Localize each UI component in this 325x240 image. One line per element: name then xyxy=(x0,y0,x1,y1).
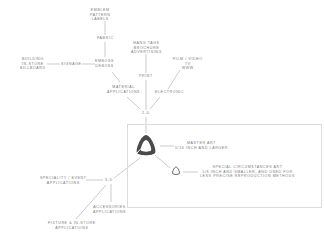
node-electronic: ELECTRONIC xyxy=(155,90,184,95)
node-building-billboard: BUILDING IN-STORE BILLBOARD xyxy=(20,57,46,71)
node-hang-tags-brochure: HANG TAGS BROCHURE ADVERTISING xyxy=(131,41,162,55)
node-fixture-in-store: FIXTURE & IN-STORE APPLICATIONS xyxy=(48,221,96,230)
node-emblem-pattern-labels: EMBLEM PATTERN LABELS xyxy=(90,8,110,22)
node-speciality-event: SPECIALITY / EVENT APPLICATIONS xyxy=(40,176,86,185)
node-fabric: FABRIC xyxy=(97,36,114,41)
node-material-applications: MATERIAL APPLICATIONS xyxy=(107,85,140,94)
node-2d: 2-D xyxy=(142,111,150,116)
node-accessories-applications: ACCESSORIES APPLICATIONS xyxy=(93,205,126,214)
node-signage: SIGNAGE xyxy=(61,62,82,67)
node-print: PRINT xyxy=(139,74,153,79)
node-emboss-deboss: EMBOSS DEBOSS xyxy=(95,59,114,68)
node-master-art: MASTER ART 5/16 INCH AND LARGER xyxy=(175,141,228,150)
node-film-video-www: FILM / VIDEO TV WWW xyxy=(173,57,203,71)
node-special-circumstances-art: SPECIAL CIRCUMSTANCES ART 1/8 INCH AND S… xyxy=(200,165,295,179)
node-3d: 3-D xyxy=(105,178,113,183)
